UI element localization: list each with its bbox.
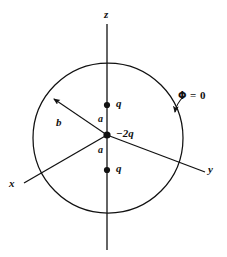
charge-label-center: −2q [116,128,134,139]
charge-label-upper: q [116,98,122,109]
axis-label-y: y [208,164,213,175]
axis-label-x: x [9,178,15,189]
distance-label-lower: a [98,145,103,155]
charge-label-lower: q [116,163,122,174]
boundary-condition-label: Φ= 0 [178,90,206,101]
radius-label: b [56,117,62,128]
phi-symbol: Φ [178,90,187,101]
charge-dot-center [103,131,110,138]
axis-label-z: z [104,9,108,20]
charge-dot-lower [104,167,110,173]
diagram-canvas [0,0,227,257]
boundary-condition-value: = 0 [190,89,206,101]
charge-dot-upper [104,102,110,108]
distance-label-upper: a [98,114,103,124]
physics-figure: z y x q −2q q a a b Φ= 0 [0,0,227,257]
